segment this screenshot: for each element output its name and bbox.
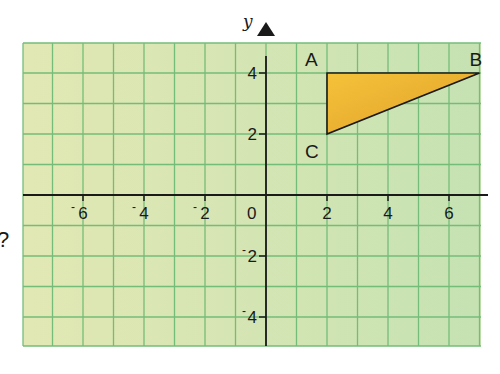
y-axis-label: y <box>242 11 253 31</box>
origin-label: 0 <box>247 204 256 223</box>
x-tick-label: 6 <box>78 204 87 223</box>
negative-sign: - <box>193 200 197 214</box>
y-axis-arrow-icon <box>257 22 275 36</box>
negative-sign: - <box>242 304 246 318</box>
x-tick-label: 6 <box>444 204 453 223</box>
negative-sign: - <box>71 200 75 214</box>
vertex-label-a: A <box>305 49 318 70</box>
x-tick-label: 2 <box>322 204 331 223</box>
y-tick-label: 2 <box>248 125 257 144</box>
x-tick-label: 4 <box>383 204 392 223</box>
margin-question-mark: ? <box>0 227 9 252</box>
negative-sign: - <box>242 243 246 257</box>
x-tick-label: 4 <box>139 204 148 223</box>
x-tick-label: 2 <box>200 204 209 223</box>
y-tick-label: 4 <box>248 308 257 327</box>
negative-sign: - <box>132 200 136 214</box>
y-tick-label: 4 <box>248 64 257 83</box>
vertex-label-b: B <box>470 49 483 70</box>
vertex-label-c: C <box>305 141 319 162</box>
y-tick-label: 2 <box>248 247 257 266</box>
coordinate-grid: y 0 ? 6-4-2-246422-4- ABC <box>0 0 500 374</box>
